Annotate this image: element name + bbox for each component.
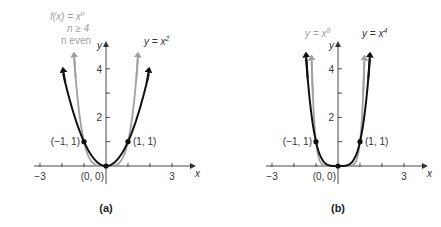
- panel-b: xy−3324 (−1, 1)(1, 1)(0, 0) y = x8 y = x…: [266, 27, 433, 214]
- point-label: (0, 0): [81, 171, 104, 182]
- panel-a: xy−3324 (−1, 1)(1, 1)(0, 0) f(x) = xn n …: [34, 10, 201, 214]
- curve-arrow-icon: [306, 55, 308, 79]
- point-marker: [103, 163, 108, 168]
- point-label: (1, 1): [133, 136, 156, 147]
- point-marker: [313, 139, 318, 144]
- y-tick-label: 4: [328, 64, 334, 75]
- x-axis-label: x: [426, 168, 433, 179]
- x-axis-label: x: [194, 168, 201, 179]
- point-marker: [81, 139, 86, 144]
- point-marker: [125, 139, 130, 144]
- panel-b-points: (−1, 1)(1, 1)(0, 0): [283, 136, 389, 182]
- panel-b-caption: (b): [331, 202, 345, 214]
- y-tick-label: 2: [328, 112, 334, 123]
- curve-label-x-n: f(x) = xn: [50, 10, 85, 22]
- panel-b-axes: xy−3324: [266, 40, 433, 184]
- panel-a-points: (−1, 1)(1, 1)(0, 0): [51, 136, 157, 182]
- point-label: (1, 1): [365, 136, 388, 147]
- point-marker: [335, 163, 340, 168]
- y-axis-label: y: [96, 40, 103, 51]
- x-tick-label: 3: [401, 171, 407, 182]
- y-tick-label: 4: [96, 64, 102, 75]
- x-tick-label: −3: [266, 171, 278, 182]
- y-axis-label: y: [328, 40, 335, 51]
- point-marker: [357, 139, 362, 144]
- point-label: (−1, 1): [283, 136, 312, 147]
- curve-label-x-squared: y = x2: [143, 35, 169, 47]
- x-tick-label: 3: [169, 171, 175, 182]
- y-tick-label: 2: [96, 112, 102, 123]
- curve-arrow-icon: [63, 70, 65, 83]
- curve-label-x-4: y = x4: [361, 27, 387, 39]
- x-tick-label: −3: [34, 171, 46, 182]
- curve-label-n-ge-4: n ≥ 4: [67, 23, 90, 34]
- curve-label-x-8: y = x8: [304, 27, 330, 39]
- point-label: (0, 0): [313, 171, 336, 182]
- curve-arrow-icon: [74, 55, 76, 79]
- point-label: (−1, 1): [51, 136, 80, 147]
- curve-arrow-icon: [368, 55, 370, 79]
- panel-a-caption: (a): [99, 202, 113, 214]
- panel-a-axes: xy−3324: [34, 40, 201, 184]
- power-functions-figure: xy−3324 (−1, 1)(1, 1)(0, 0) f(x) = xn n …: [0, 0, 441, 227]
- curve-label-n-even: n even: [61, 35, 91, 46]
- curve-arrow-icon: [147, 70, 149, 83]
- curve-arrow-icon: [136, 55, 138, 79]
